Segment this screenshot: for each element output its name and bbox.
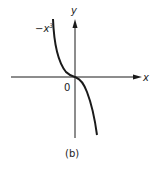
figure-caption: (b) bbox=[65, 148, 79, 159]
x-axis-label: x bbox=[142, 72, 149, 83]
x-axis-arrow-icon bbox=[133, 75, 142, 80]
origin-label: 0 bbox=[64, 82, 70, 93]
y-axis-label: y bbox=[70, 5, 78, 16]
function-label: −x3 bbox=[35, 22, 53, 34]
cubic-graph: −x3 y x 0 (b) bbox=[0, 0, 157, 170]
y-axis-arrow-icon bbox=[73, 19, 78, 28]
